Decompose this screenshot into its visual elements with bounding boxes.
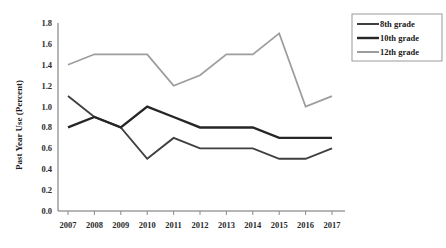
y-tick-label: 0.0 — [41, 206, 52, 216]
chart-legend: 8th grade10th grade12th grade — [352, 14, 442, 61]
x-tick-label: 2012 — [192, 220, 209, 230]
y-tick-label: 1.0 — [41, 102, 52, 112]
legend-label: 10th grade — [380, 33, 419, 43]
x-tick-label: 2016 — [297, 220, 314, 230]
x-axis-tick-marks — [68, 211, 332, 215]
y-tick-label: 0.4 — [41, 164, 52, 174]
y-axis-title-text: Past Year Use (Percent) — [14, 80, 24, 170]
x-tick-label: 2015 — [271, 220, 288, 230]
x-axis-tick-labels: 2007200820092010201120122013201420152016… — [60, 220, 342, 230]
y-tick-label: 0.8 — [41, 122, 52, 132]
x-tick-label: 2014 — [244, 220, 262, 230]
x-tick-label: 2013 — [218, 220, 235, 230]
x-tick-label: 2010 — [139, 220, 156, 230]
y-tick-label: 0.2 — [41, 185, 52, 195]
x-tick-label: 2017 — [324, 220, 342, 230]
series-line-10th-grade — [68, 107, 332, 138]
x-tick-label: 2007 — [60, 220, 78, 230]
chart-canvas: Past Year Use (Percent) 0.00.20.40.60.81… — [0, 0, 446, 248]
x-tick-label: 2008 — [86, 220, 103, 230]
x-tick-label: 2011 — [165, 220, 182, 230]
legend-label: 8th grade — [380, 19, 415, 29]
x-tick-label: 2009 — [112, 220, 129, 230]
legend-label: 12th grade — [380, 47, 419, 57]
data-series-group — [68, 33, 332, 158]
y-tick-label: 1.2 — [41, 81, 52, 91]
y-tick-label: 1.4 — [41, 60, 52, 70]
y-tick-label: 0.6 — [41, 143, 52, 153]
y-tick-label: 1.8 — [41, 18, 52, 28]
y-tick-label: 1.6 — [41, 39, 52, 49]
y-axis-title: Past Year Use (Percent) — [14, 80, 24, 170]
line-chart: Past Year Use (Percent) 0.00.20.40.60.81… — [0, 0, 446, 248]
series-line-12th-grade — [68, 33, 332, 106]
y-axis-tick-labels: 0.00.20.40.60.81.01.21.41.61.8 — [41, 18, 52, 216]
